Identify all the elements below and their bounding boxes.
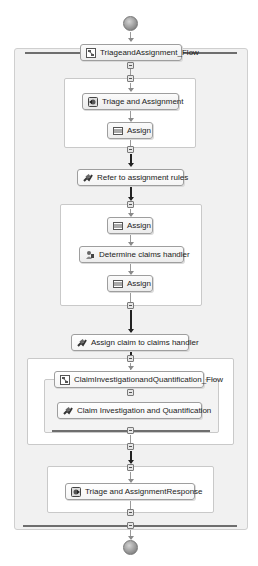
collapse-handle[interactable] — [127, 509, 134, 516]
collapse-handle[interactable] — [127, 75, 134, 82]
assign-icon — [113, 126, 123, 136]
node-triage-and-assignment[interactable]: Triage and Assignment — [82, 93, 179, 110]
assign-icon — [113, 221, 123, 231]
human-task-icon — [85, 250, 95, 260]
connector — [130, 293, 131, 302]
invoke-icon — [77, 338, 87, 348]
flow-icon — [60, 375, 70, 385]
arrow-icon — [128, 366, 134, 370]
node-label: Triage and Assignment — [102, 97, 184, 106]
node-assign-1[interactable]: Assign — [107, 122, 153, 139]
collapse-handle[interactable] — [127, 389, 134, 396]
invoke-icon — [83, 173, 93, 183]
assign-icon — [113, 279, 123, 289]
end-node[interactable] — [123, 540, 138, 555]
node-label: Determine claims handler — [99, 250, 190, 259]
node-label: Assign — [127, 279, 151, 288]
arrow-icon — [128, 38, 134, 42]
collapse-handle[interactable] — [127, 62, 134, 69]
start-node[interactable] — [123, 16, 138, 31]
arrow-icon — [128, 88, 134, 92]
collapse-handle[interactable] — [127, 302, 134, 309]
collapse-handle[interactable] — [127, 201, 134, 208]
node-label: Assign — [127, 221, 151, 230]
invoke-icon — [63, 406, 73, 416]
node-refer-to-assignment-rules[interactable]: Refer to assignment rules — [77, 169, 184, 186]
flow-node-claim-investigation[interactable]: ClaimInvestigationandQuantification_Flow — [54, 371, 204, 388]
node-label: Assign claim to claims handler — [91, 338, 199, 347]
node-determine-claims-handler[interactable]: Determine claims handler — [79, 246, 184, 263]
arrow-icon — [128, 329, 134, 333]
node-assign-claim-to-claims-handler[interactable]: Assign claim to claims handler — [71, 334, 189, 351]
node-assign-3[interactable]: Assign — [107, 275, 153, 292]
collapse-handle[interactable] — [127, 522, 134, 529]
reply-icon — [71, 487, 81, 497]
node-label: TriageandAssignment_Flow — [100, 48, 199, 57]
flow-top-bar-left — [25, 52, 80, 54]
flow-node-triage-assignment[interactable]: TriageandAssignment_Flow — [80, 44, 182, 61]
node-claim-investigation-and-quantification[interactable]: Claim Investigation and Quantification — [57, 402, 202, 419]
node-label: Assign — [127, 126, 151, 135]
collapse-handle[interactable] — [127, 443, 134, 450]
collapse-handle[interactable] — [127, 146, 134, 153]
node-label: Refer to assignment rules — [97, 173, 188, 182]
node-triage-and-assignment-response[interactable]: Triage and AssignmentResponse — [65, 483, 195, 500]
collapse-handle[interactable] — [127, 427, 134, 434]
flow-icon — [86, 48, 96, 58]
node-assign-2[interactable]: Assign — [107, 217, 153, 234]
collapse-handle[interactable] — [127, 355, 134, 362]
node-label: Triage and AssignmentResponse — [85, 487, 203, 496]
node-label: Claim Investigation and Quantification — [77, 406, 211, 415]
collapse-handle[interactable] — [127, 464, 134, 471]
node-label: ClaimInvestigationandQuantification_Flow — [74, 375, 223, 384]
receive-icon — [88, 97, 98, 107]
arrow-icon — [128, 163, 134, 167]
